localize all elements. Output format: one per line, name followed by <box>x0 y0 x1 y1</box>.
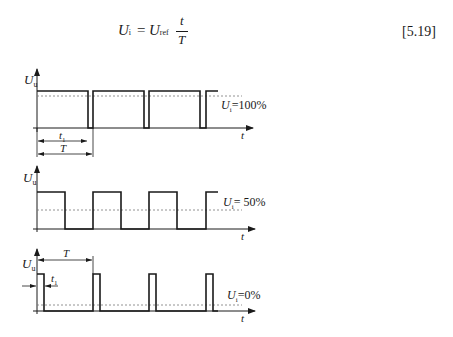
y-axis-label: Uu <box>22 256 35 273</box>
plot-duty-0: Uu Ui=0% t T t1 <box>22 247 260 324</box>
duty-label: Ui= 50% <box>223 195 265 211</box>
duty-label: Ui=100% <box>221 98 266 114</box>
plot-duty-50: Uu Ui= 50% t <box>23 166 265 242</box>
duty-label: Ui=0% <box>227 288 260 304</box>
pwm-signal <box>37 192 218 229</box>
t1-label: t1 <box>51 272 58 287</box>
x-axis-label: t <box>241 129 245 141</box>
x-axis-label: t <box>241 312 245 324</box>
plot-duty-100: Uu Ui=100% t t1 T <box>24 69 266 157</box>
y-axis-label: Uu <box>23 170 36 187</box>
x-axis-label: t <box>241 230 245 242</box>
pwm-signal <box>37 274 218 311</box>
y-axis-label: Uu <box>24 72 37 89</box>
period-label: T <box>63 247 70 259</box>
pwm-waveform-diagram: Uu Ui=100% t t1 T Uu Ui= 50% t Uu Ui=0% … <box>0 0 453 337</box>
pwm-signal <box>37 91 218 128</box>
period-label: T <box>60 142 67 154</box>
